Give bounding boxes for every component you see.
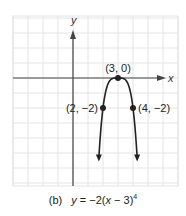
graph-figure: y x (3, 0)(2, −2)(4, −2) [0, 0, 186, 216]
grid [13, 16, 178, 186]
panel-label: (b) [49, 194, 62, 206]
x-axis-arrow-icon [157, 75, 166, 81]
point-label: (4, −2) [138, 102, 170, 114]
figure-caption: (b) y = −2(x − 3)4 [0, 193, 186, 206]
equation-rest: − 3) [111, 194, 133, 206]
point-marker [100, 105, 106, 111]
equation-exponent: 4 [133, 193, 137, 200]
point-label: (3, 0) [105, 62, 131, 74]
x-axis-label: x [167, 72, 174, 84]
point-label: (2, −2) [66, 102, 98, 114]
y-axis-arrow-icon [70, 30, 76, 39]
equation-coef: −2( [89, 194, 105, 206]
equation-eq: = [77, 194, 90, 206]
point-marker [130, 105, 136, 111]
point-marker [115, 75, 121, 81]
